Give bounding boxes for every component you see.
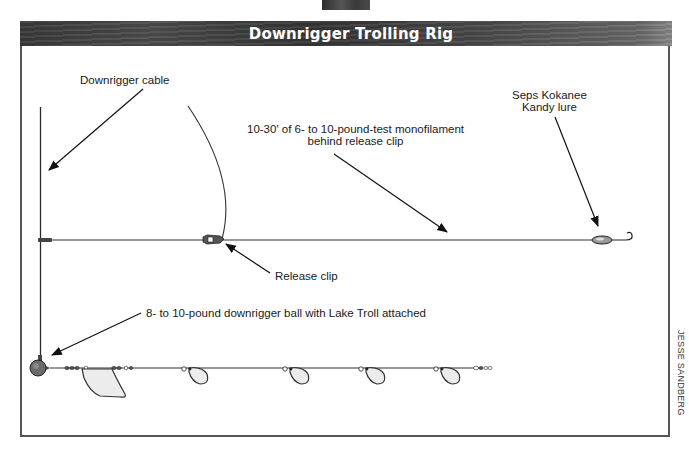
- downrigger-ball-icon: [30, 355, 50, 376]
- arrow-downrigger-cable: [49, 89, 143, 170]
- illustrator-credit: JESSE SANDBERG: [676, 330, 686, 416]
- arrow-release-clip: [226, 244, 270, 273]
- label-monofilament: 10-30' of 6- to 10-pound-test monofilame…: [247, 123, 464, 147]
- label-downrigger-cable: Downrigger cable: [80, 74, 170, 86]
- label-downrigger-ball: 8- to 10-pound downrigger ball with Lake…: [146, 307, 426, 319]
- arrow-lure: [555, 117, 598, 226]
- label-monofilament-line1: 10-30' of 6- to 10-pound-test monofilame…: [247, 123, 464, 135]
- lure-icon: [592, 232, 632, 244]
- lake-troll-rudder-icon: [82, 369, 125, 397]
- spinner-blade-2: [283, 367, 309, 384]
- rig-illustration: [0, 0, 689, 451]
- label-release-clip: Release clip: [275, 270, 338, 282]
- main-line: [38, 238, 594, 242]
- label-lure-line1: Seps Kokanee: [512, 89, 587, 101]
- label-lure-line2: Kandy lure: [512, 101, 587, 113]
- label-lure: Seps Kokanee Kandy lure: [512, 89, 587, 113]
- arrow-downrigger-ball: [52, 313, 141, 355]
- label-monofilament-line2: behind release clip: [247, 135, 464, 147]
- spinner-blade-3: [359, 367, 385, 384]
- spinner-blade-4: [434, 367, 460, 384]
- spinner-blade-1: [182, 367, 208, 384]
- release-clip-icon: [203, 235, 224, 244]
- rod-line-curve: [188, 106, 226, 239]
- arrow-monofilament: [334, 154, 447, 232]
